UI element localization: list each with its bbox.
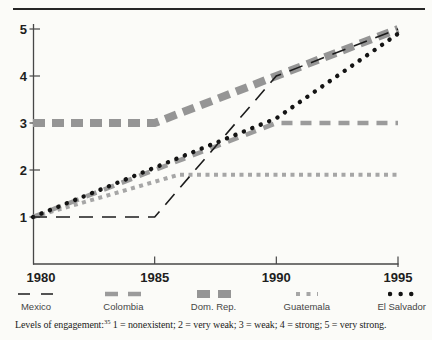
series-line-dom-rep	[33, 29, 398, 123]
x-tick-label: 1990	[262, 270, 291, 285]
legend-item-label: Dom. Rep.	[191, 301, 236, 312]
legend-swatch-dom-rep	[195, 288, 233, 300]
legend-item-mexico: Mexico	[16, 288, 56, 312]
legend-item-label: Colombia	[103, 301, 143, 312]
y-tick-label: 4	[20, 69, 28, 84]
legend-swatch-el-salvador	[388, 288, 416, 300]
y-tick-label: 5	[20, 22, 27, 37]
legend-item-el-salvador: El Salvador	[377, 288, 426, 312]
legend-item-label: Mexico	[21, 301, 51, 312]
y-tick-label: 2	[20, 163, 27, 178]
legend-item-dom-rep: Dom. Rep.	[191, 288, 236, 312]
footnote: Levels of engagement:35 1 = nonexistent;…	[15, 319, 429, 330]
y-tick-label: 3	[20, 116, 27, 131]
legend-item-label: Guatemala	[284, 301, 330, 312]
legend-swatch-colombia	[103, 288, 143, 300]
x-tick-label: 1980	[27, 270, 56, 285]
legend-item-label: El Salvador	[377, 301, 426, 312]
legend-item-guatemala: Guatemala	[284, 288, 330, 312]
x-tick-label: 1985	[140, 270, 169, 285]
series-line-el-salvador	[33, 34, 398, 217]
legend-swatch-guatemala	[294, 288, 320, 300]
legend-swatch-mexico	[16, 288, 56, 300]
series-line-colombia	[33, 123, 398, 217]
legend: MexicoColombiaDom. Rep.GuatemalaEl Salva…	[16, 288, 426, 312]
footnote-text: 1 = nonexistent; 2 = very weak; 3 = weak…	[113, 319, 387, 330]
footnote-ref: 35	[104, 318, 110, 325]
chart-canvas: 123451980198519901995	[0, 0, 432, 286]
figure: 123451980198519901995 MexicoColombiaDom.…	[0, 0, 432, 340]
x-tick-label: 1995	[384, 270, 413, 285]
y-tick-label: 1	[20, 210, 27, 225]
legend-item-colombia: Colombia	[103, 288, 143, 312]
footnote-prefix: Levels of engagement:	[15, 319, 104, 330]
